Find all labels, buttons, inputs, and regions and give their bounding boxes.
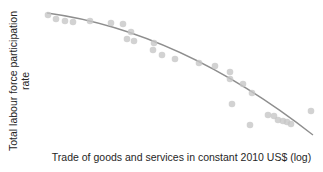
data-point [62,18,69,25]
scatter-figure: Total labour force participation rate Tr… [0,0,323,172]
data-point [288,121,295,128]
data-point [227,69,234,76]
scatter-points [45,12,315,129]
data-point [172,56,179,63]
data-point [70,19,77,26]
data-point [212,63,219,70]
data-point [120,21,127,28]
data-point [240,81,247,88]
data-point [45,12,52,19]
data-point [128,29,135,36]
data-point [265,112,272,119]
data-point [87,18,94,25]
data-point [227,76,234,83]
data-point [150,47,157,54]
y-axis-label-line2: rate [19,11,31,151]
data-point [108,20,115,27]
data-point [131,38,138,45]
data-point [159,52,166,59]
data-point [249,90,256,97]
x-axis-label: Trade of goods and services in constant … [40,151,323,163]
data-point [151,40,158,47]
y-axis-label: Total labour force participation rate [8,11,31,151]
data-point [229,101,236,108]
data-point [196,60,203,67]
data-point [247,122,254,129]
data-point [308,108,315,115]
plot-canvas [0,0,323,172]
y-axis-label-line1: Total labour force participation [8,11,20,151]
data-point [124,36,131,43]
data-point [53,16,60,23]
